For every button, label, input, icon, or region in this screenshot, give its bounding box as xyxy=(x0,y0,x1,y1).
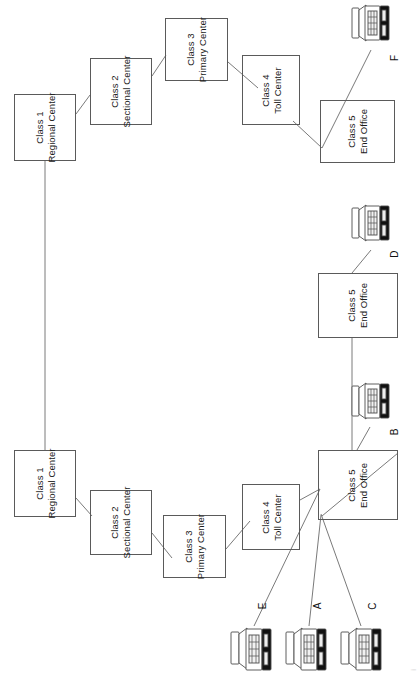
node-class2-sectional-center-top[interactable]: Class 2Sectional Center xyxy=(90,58,152,125)
node-label: Class 1Regional Center xyxy=(34,448,57,518)
node-class3-primary-center-top[interactable]: Class 3Primary Center xyxy=(165,18,228,81)
phone-label-f: F xyxy=(389,51,401,65)
telephone-icon-a[interactable] xyxy=(283,622,329,662)
phone-label-b: B xyxy=(389,425,401,439)
node-class2-sectional-center-bottom[interactable]: Class 2Sectional Center xyxy=(90,490,152,555)
node-class3-primary-center-bottom[interactable]: Class 3Primary Center xyxy=(163,515,226,578)
node-label: Class 1Regional Center xyxy=(34,92,57,162)
link-rc-top-sc-top xyxy=(76,95,90,114)
node-class5-end-office-d[interactable]: Class 5End Office xyxy=(318,273,398,338)
node-class4-toll-center-bottom[interactable]: Class 4Toll Center xyxy=(242,484,300,550)
telephone-icon-d[interactable] xyxy=(348,203,394,243)
node-class5-end-office-main[interactable]: Class 5End Office xyxy=(318,450,398,520)
phone-label-a: A xyxy=(312,599,324,613)
node-class1-regional-center-bottom[interactable]: Class 1Regional Center xyxy=(14,450,76,517)
figure-caption: i xyxy=(409,669,418,671)
node-label: Class 2Sectional Center xyxy=(110,487,133,559)
link-eo-main-phone-b xyxy=(357,427,370,450)
node-label: Class 5End Office xyxy=(347,462,370,507)
telephone-icon-c[interactable] xyxy=(338,622,384,662)
diagram-canvas: Class 1Regional Center Class 2Sectional … xyxy=(0,0,419,675)
node-class1-regional-center-top[interactable]: Class 1Regional Center xyxy=(14,94,76,161)
phone-label-c: C xyxy=(367,599,379,613)
telephone-icon-b[interactable] xyxy=(348,381,394,421)
node-label: Class 3Primary Center xyxy=(185,17,208,82)
link-tc-top-eo-f xyxy=(293,121,322,148)
link-eo-d-phone-d xyxy=(352,250,371,273)
node-class4-toll-center-top[interactable]: Class 4Toll Center xyxy=(242,55,300,125)
node-label: Class 5End Office xyxy=(346,109,369,154)
phone-label-e: E xyxy=(257,599,269,613)
link-eo-main-phone-c xyxy=(321,514,361,626)
telephone-icon-e[interactable] xyxy=(228,622,274,662)
node-label: Class 4Toll Center xyxy=(259,67,282,114)
node-label: Class 3Primary Center xyxy=(183,514,206,579)
node-class5-end-office-f[interactable]: Class 5End Office xyxy=(320,100,395,163)
node-label: Class 5End Office xyxy=(347,283,370,328)
node-label: Class 2Sectional Center xyxy=(110,56,133,128)
link-tc-bot-eo-main xyxy=(300,489,320,500)
node-label: Class 4Toll Center xyxy=(259,494,282,541)
telephone-icon-f[interactable] xyxy=(348,3,394,43)
link-sc-top-pc-top xyxy=(152,55,166,76)
phone-label-d: D xyxy=(389,247,401,261)
